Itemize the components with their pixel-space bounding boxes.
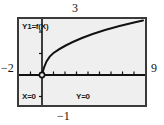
y-coordinate-readout: Y=0 <box>76 93 90 101</box>
y-max-range-label: 3 <box>72 2 78 14</box>
x-coordinate-readout: X=0 <box>22 93 36 101</box>
function-label: Y1=f(X) <box>22 23 48 31</box>
y-min-range-label: −1 <box>57 110 70 122</box>
graphing-calculator-figure: 3 −2 9 −1 <box>0 0 164 125</box>
x-max-range-label: 9 <box>151 62 157 74</box>
trace-cursor[interactable] <box>39 72 44 77</box>
x-min-range-label: −2 <box>1 62 14 74</box>
function-curve <box>42 21 143 76</box>
calculator-screen[interactable]: Y1=f(X) X=0 Y=0 <box>17 17 147 107</box>
